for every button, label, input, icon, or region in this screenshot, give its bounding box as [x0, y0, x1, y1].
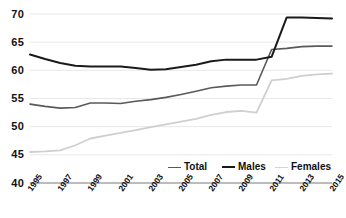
legend-label: Total — [184, 162, 207, 172]
y-tick-label: 45 — [2, 149, 24, 160]
legend-item-total[interactable]: Total — [168, 162, 207, 172]
series-line-males — [30, 17, 332, 69]
legend-swatch-icon — [275, 167, 288, 168]
y-tick-label: 40 — [2, 178, 24, 189]
legend-item-females[interactable]: Females — [275, 162, 331, 172]
y-tick-label: 65 — [2, 37, 24, 48]
series-line-females — [30, 74, 332, 152]
legend-swatch-icon — [168, 167, 181, 168]
legend-swatch-icon — [222, 166, 235, 168]
legend-label: Females — [291, 162, 331, 172]
y-tick-label: 60 — [2, 65, 24, 76]
y-tick-label: 70 — [2, 9, 24, 20]
gridlines — [30, 14, 332, 155]
y-tick-label: 50 — [2, 121, 24, 132]
y-tick-label: 55 — [2, 93, 24, 104]
legend-label: Males — [238, 162, 266, 172]
data-series-group — [30, 17, 332, 152]
legend-item-males[interactable]: Males — [222, 162, 266, 172]
